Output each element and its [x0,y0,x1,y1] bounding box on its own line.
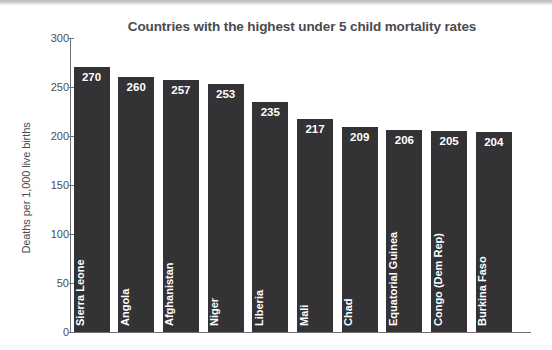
y-tick-label: 200 [35,130,69,142]
bar-value-label: 260 [118,81,154,93]
y-tick-label: 100 [35,228,69,240]
bar-value-label: 257 [163,84,199,96]
y-tick-mark [69,38,74,39]
bar: 205Congo (Dem Rep) [431,131,467,332]
bar-value-label: 209 [342,131,378,143]
bar-category-label: Chad [342,298,354,326]
bar-value-label: 235 [252,106,288,118]
bar-value-label: 206 [386,134,422,146]
y-tick-label: 50 [35,277,69,289]
bar-value-label: 204 [476,136,512,148]
bar-category-label: Burkina Faso [476,256,488,326]
bar: 253Niger [208,84,244,332]
bar: 217Mali [297,119,333,331]
y-tick-label: 250 [35,81,69,93]
x-axis-line [70,332,531,333]
bar-category-label: Angola [119,288,131,325]
bar-category-label: Liberia [253,289,265,325]
bar-category-label: Afghanistan [163,262,175,326]
bar: 235Liberia [252,102,288,332]
bar-value-label: 253 [208,88,244,100]
bar: 204Burkina Faso [476,132,512,332]
y-tick-label: 0 [35,326,69,338]
bar-category-label: Congo (Dem Rep) [432,233,444,326]
bar-value-label: 217 [297,123,333,135]
chart-figure: Countries with the highest under 5 child… [0,0,552,350]
bar: 257Afghanistan [163,80,199,331]
bar: 209Chad [342,127,378,331]
y-tick-label: 150 [35,179,69,191]
bar-category-label: Sierra Leone [74,259,86,326]
bar-category-label: Mali [298,304,310,325]
bar: 270Sierra Leone [74,67,110,331]
bar: 260Angola [118,77,154,331]
bar: 206Equatorial Guinea [386,130,422,332]
plot-area: 050100150200250300 270Sierra Leone260Ang… [0,0,552,350]
bar-value-label: 270 [74,71,110,83]
y-tick-label: 300 [35,32,69,44]
bar-category-label: Equatorial Guinea [387,231,399,325]
bar-value-label: 205 [431,135,467,147]
bar-category-label: Niger [208,297,220,325]
y-tick-mark [69,332,74,333]
